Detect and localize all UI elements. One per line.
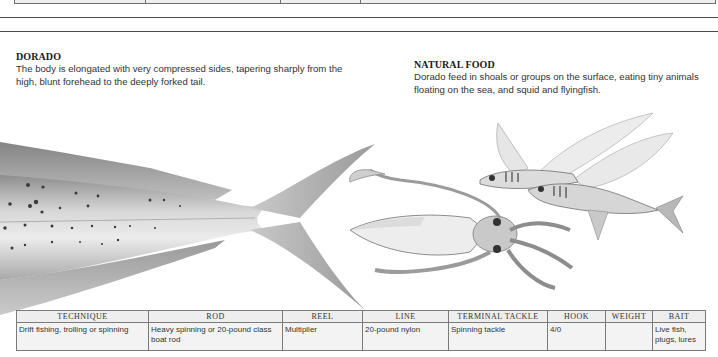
header-weight: WEIGHT	[606, 311, 653, 323]
cell-rod: Heavy spinning or 20-pound class boat ro…	[149, 323, 283, 351]
header-reel: REEL	[283, 311, 363, 323]
dorado-description: The body is elongated with very compress…	[16, 62, 356, 88]
table-divider	[280, 0, 281, 3]
table-header-row: TECHNIQUE ROD REEL LINE TERMINAL TACKLE …	[17, 311, 706, 323]
section-rule-top	[0, 17, 718, 18]
header-terminal-tackle: TERMINAL TACKLE	[449, 311, 548, 323]
header-hook: HOOK	[548, 311, 606, 323]
table-row: Drift fishing, trolling or spinning Heav…	[17, 323, 706, 351]
flyingfish-illustration-icon	[478, 108, 718, 248]
header-line: LINE	[363, 311, 449, 323]
cell-weight	[606, 323, 653, 351]
cell-technique: Drift fishing, trolling or spinning	[17, 323, 149, 351]
natural-food-heading: NATURAL FOOD	[414, 59, 495, 70]
tackle-table: TECHNIQUE ROD REEL LINE TERMINAL TACKLE …	[16, 310, 706, 351]
previous-table-fragment	[14, 0, 716, 4]
header-rod: ROD	[149, 311, 283, 323]
dorado-heading: DORADO	[16, 51, 61, 62]
table-divider	[360, 0, 361, 3]
cell-hook: 4/0	[548, 323, 606, 351]
cell-bait: Live fish, plugs, lures	[653, 323, 706, 351]
table-divider	[145, 0, 146, 3]
cell-terminal-tackle: Spinning tackle	[449, 323, 548, 351]
section-rule-bottom	[0, 31, 718, 32]
header-bait: BAIT	[653, 311, 706, 323]
header-technique: TECHNIQUE	[17, 311, 149, 323]
cell-line: 20-pound nylon	[363, 323, 449, 351]
cell-reel: Multiplier	[283, 323, 363, 351]
natural-food-description: Dorado feed in shoals or groups on the s…	[414, 70, 714, 96]
